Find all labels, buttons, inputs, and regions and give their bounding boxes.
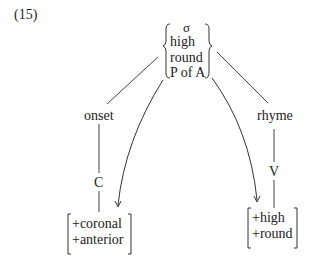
onset-node: onset (84, 108, 114, 123)
feature: +round (252, 226, 293, 242)
feature: +coronal (72, 216, 123, 232)
root-sigma: σ (183, 20, 190, 35)
right-brace (205, 24, 212, 78)
left-brace (163, 24, 170, 78)
left-feature-matrix: +coronal +anterior (72, 216, 123, 247)
v-node: V (269, 164, 279, 179)
feature: +anterior (72, 232, 123, 248)
rhyme-node: rhyme (257, 108, 293, 123)
spread-arrow-right (212, 78, 257, 200)
right-feature-matrix: +high +round (252, 210, 293, 241)
feature: +high (252, 210, 293, 226)
c-node: C (94, 175, 103, 190)
example-number: (15) (14, 7, 37, 22)
root-feature-list: high round P of A (170, 34, 205, 81)
root-feature: round (170, 50, 205, 66)
spread-arrow-left (118, 80, 163, 205)
root-feature: high (170, 34, 205, 50)
root-feature: P of A (170, 65, 205, 81)
